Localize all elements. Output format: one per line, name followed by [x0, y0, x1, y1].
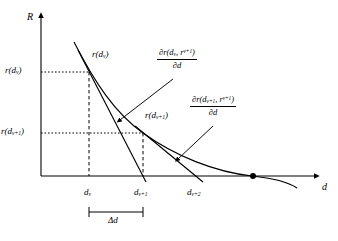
- figure-container: R d r(dv) r(dv+1) dv dv+1 dv+2 r(dv) r(d…: [0, 0, 338, 241]
- y-tick-label-rdv1: r(dv+1): [1, 127, 24, 137]
- partial-derivative-dv1-denominator: ∂d: [190, 106, 236, 118]
- x-tick-label-dv2: dv+2: [187, 188, 201, 198]
- y-axis-label: R: [27, 12, 33, 22]
- partial-derivative-dv1: ∂r(dv+1, rv+1) ∂d: [190, 95, 236, 118]
- x-tick-label-dv: dv: [84, 188, 91, 198]
- partial-derivative-dv-numerator: ∂r(dv, rv+1): [157, 48, 197, 59]
- figure-canvas: [0, 0, 338, 241]
- x-tick-label-dv1: dv+1: [134, 188, 148, 198]
- root-marker-dot: [250, 173, 256, 179]
- curve-point-label-dv: r(dv): [92, 50, 108, 60]
- x-axis-label: d: [322, 182, 327, 192]
- delta-d-label: Δd: [108, 216, 118, 225]
- y-tick-label-rdv: r(dv): [5, 66, 21, 76]
- partial-derivative-dv: ∂r(dv, rv+1) ∂d: [157, 48, 197, 71]
- partial-derivative-dv-denominator: ∂d: [157, 59, 197, 71]
- leader-arrow-dv1: [178, 126, 213, 159]
- tangent-line-at-dv: [78, 50, 146, 182]
- tangent-line-at-dv1: [135, 126, 203, 182]
- partial-derivative-dv1-numerator: ∂r(dv+1, rv+1): [190, 95, 236, 106]
- curve-point-label-dv1: r(dv+1): [145, 111, 168, 121]
